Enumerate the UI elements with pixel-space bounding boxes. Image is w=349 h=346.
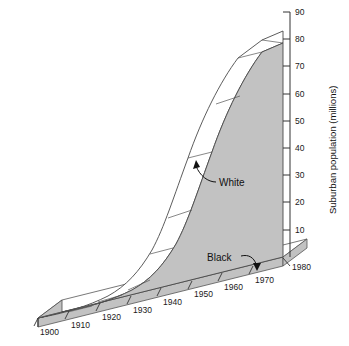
series-area-white [38,43,283,327]
y-tick-30: 30 [295,170,305,180]
chart-canvas: 90 80 70 60 50 40 30 20 10 Suburban popu… [0,0,349,346]
x-tick-1960: 1960 [224,282,243,292]
x-tick-1900: 1900 [40,327,59,337]
y-tick-80: 80 [295,34,305,44]
y-axis: 90 80 70 60 50 40 30 20 10 Suburban popu… [283,7,338,257]
y-tick-90: 90 [295,7,305,17]
x-tick-1970: 1970 [255,275,274,285]
y-tick-40: 40 [295,143,305,153]
x-tick-1930: 1930 [133,305,152,315]
black-series-label: Black [207,252,232,263]
y-tick-10: 10 [295,225,305,235]
suburban-population-chart: 90 80 70 60 50 40 30 20 10 Suburban popu… [0,0,349,346]
y-tick-20: 20 [295,197,305,207]
y-tick-50: 50 [295,116,305,126]
y-axis-title: Suburban population (millions) [327,86,338,214]
x-tick-1920: 1920 [102,312,121,322]
x-tick-1950: 1950 [194,289,213,299]
y-tick-70: 70 [295,61,305,71]
x-tick-1940: 1940 [163,297,182,307]
y-tick-60: 60 [295,89,305,99]
white-population-area [38,43,283,327]
x-tick-1910: 1910 [71,320,90,330]
x-tick-1980: 1980 [292,262,311,272]
white-series-label: White [219,177,245,188]
